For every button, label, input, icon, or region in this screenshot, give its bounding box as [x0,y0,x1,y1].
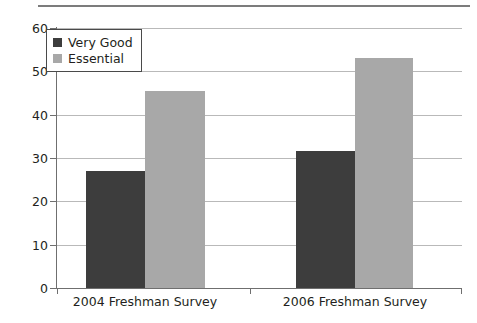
x-axis-label-2006: 2006 Freshman Survey [283,294,427,309]
legend-item-essential[interactable]: Essential [53,50,133,66]
y-axis-label-10: 10 [14,238,48,253]
bar-chart-figure: 60 50 40 30 20 10 0 2004 Freshman Su [0,0,477,323]
top-horizontal-rule [38,5,470,7]
y-tick-20 [50,201,57,202]
legend: Very Good Essential [46,29,142,72]
x-tick-middle [250,288,251,294]
y-axis-label-40: 40 [14,108,48,123]
y-tick-30 [50,158,57,159]
y-axis-label-60: 60 [14,21,48,36]
x-axis-line [57,288,462,289]
y-axis-label-0: 0 [14,281,48,296]
y-axis-label-50: 50 [14,64,48,79]
bar-very-good-2004[interactable] [86,171,145,288]
bar-very-good-2006[interactable] [296,151,355,288]
y-tick-10 [50,245,57,246]
y-tick-40 [50,115,57,116]
x-tick-right [461,288,462,294]
legend-label-very-good: Very Good [68,35,133,50]
x-tick-left [57,288,58,294]
y-axis-label-30: 30 [14,151,48,166]
y-axis-label-20: 20 [14,194,48,209]
bar-essential-2004[interactable] [145,91,205,288]
y-tick-0 [50,288,57,289]
dark-swatch-icon [53,38,62,47]
x-axis-label-2004: 2004 Freshman Survey [73,294,217,309]
light-swatch-icon [53,54,62,63]
legend-item-very-good[interactable]: Very Good [53,34,133,50]
bar-essential-2006[interactable] [355,58,413,288]
legend-label-essential: Essential [68,51,124,66]
